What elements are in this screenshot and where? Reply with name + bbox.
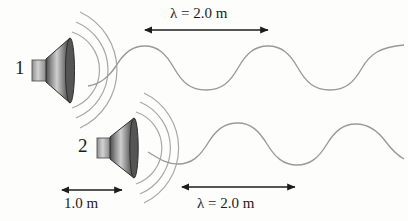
wavelength-label-bottom: λ = 2.0 m xyxy=(197,196,254,211)
speaker-1-label: 1 xyxy=(15,58,25,77)
sine-wave-top xyxy=(88,45,404,90)
speaker-2-label: 2 xyxy=(78,136,88,155)
speaker-2-cone-mouth xyxy=(130,118,138,178)
speaker-1-wavefront-arcs xyxy=(72,12,117,128)
sine-wave-bottom xyxy=(148,123,404,165)
separation-distance-label: 1.0 m xyxy=(64,196,98,211)
speaker-1-cone-mouth xyxy=(66,38,75,103)
speaker-2-magnet xyxy=(97,138,111,158)
wave-diagram: 1 2 λ = 2.0 m 1.0 m λ = 2.0 m xyxy=(0,0,408,221)
speaker-1-group xyxy=(32,12,117,128)
speaker-1-magnet xyxy=(32,60,47,81)
diagram-canvas xyxy=(0,0,408,221)
speaker-2-group xyxy=(97,93,179,203)
wavelength-label-top: λ = 2.0 m xyxy=(170,6,227,21)
speaker-2-wavefront-arcs xyxy=(136,93,179,203)
